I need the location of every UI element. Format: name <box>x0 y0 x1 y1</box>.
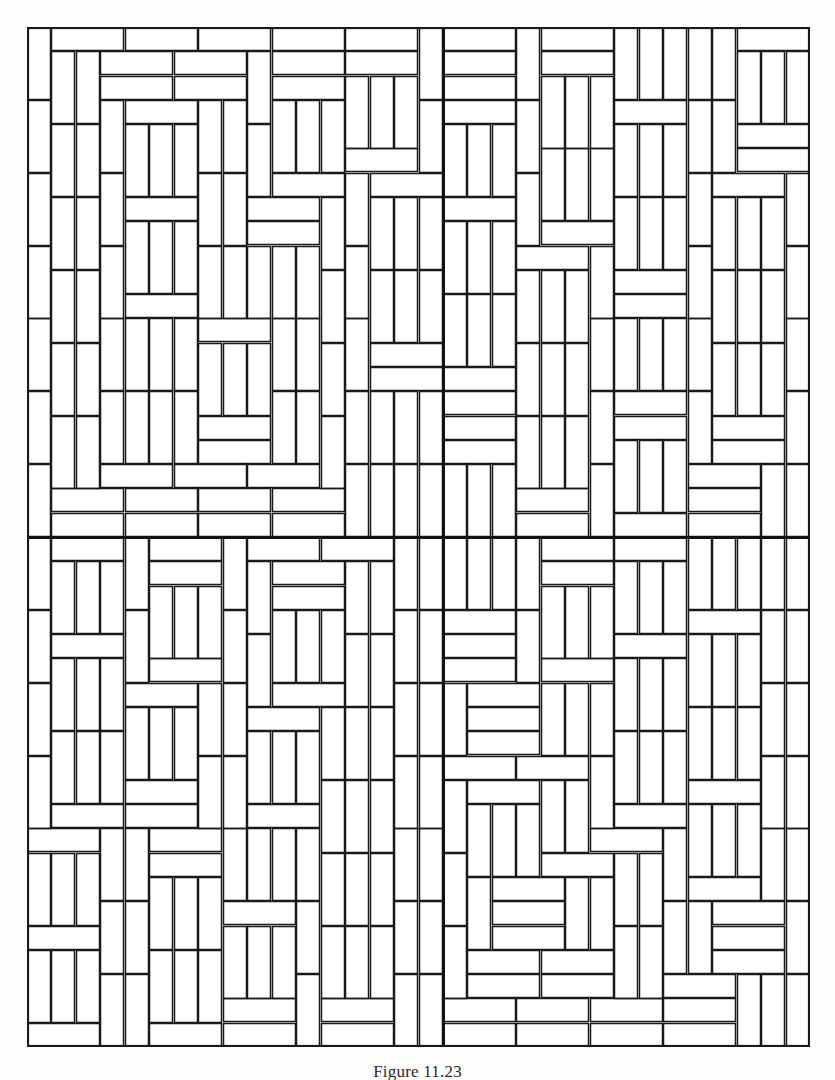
figure-caption: Figure 11.23 <box>0 1062 835 1080</box>
tiling-diagram <box>27 27 810 1047</box>
figure-frame <box>27 27 810 1047</box>
page-background: Figure 11.23 <box>0 0 835 1080</box>
